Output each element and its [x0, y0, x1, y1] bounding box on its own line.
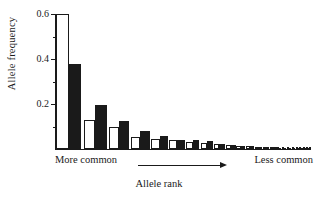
y-tick-label: 0.4 — [23, 53, 49, 64]
bar-white — [84, 120, 95, 149]
x-axis-label: Allele rank — [0, 178, 318, 189]
bar-pair — [56, 14, 84, 149]
bar-pair — [186, 14, 201, 149]
bar-black — [140, 131, 149, 149]
x-axis-annotations: More common Less common — [55, 154, 313, 172]
bar-pair — [236, 14, 246, 149]
bar-pair — [151, 14, 169, 149]
bar-white — [109, 127, 119, 150]
bar-pair — [131, 14, 151, 149]
bar-pair — [109, 14, 131, 149]
bar-black — [310, 148, 311, 149]
more-common-label: More common — [55, 154, 117, 165]
y-tick-major — [51, 14, 55, 15]
bar-group — [56, 14, 311, 149]
bar-black — [219, 144, 224, 149]
bar-black — [177, 140, 185, 149]
bar-pair — [246, 14, 255, 149]
bar-black — [119, 121, 129, 149]
y-tick-major — [51, 104, 55, 105]
bar-black — [207, 141, 213, 149]
bar-white — [186, 142, 193, 149]
bar-black — [250, 146, 254, 149]
bar-pair — [226, 14, 237, 149]
y-tick-label: 0.2 — [23, 98, 49, 109]
arrow-line — [138, 165, 222, 166]
bar-black — [193, 140, 200, 149]
bar-pair — [263, 14, 270, 149]
y-tick-minor — [53, 37, 55, 38]
bar-white — [151, 139, 159, 149]
bar-pair — [255, 14, 263, 149]
allele-frequency-chart: Allele frequency 0.20.40.6 More common L… — [0, 0, 318, 200]
bar-white — [131, 137, 140, 149]
bar-black — [266, 147, 269, 149]
bar-pair — [201, 14, 214, 149]
bar-white — [169, 140, 177, 149]
y-tick-minor — [53, 82, 55, 83]
bar-pair — [169, 14, 185, 149]
y-tick-major — [51, 59, 55, 60]
y-axis-label: Allele frequency — [6, 0, 17, 119]
arrow-head — [220, 162, 227, 168]
bar-black — [241, 146, 245, 149]
bar-pair — [309, 14, 311, 149]
bar-black — [258, 147, 262, 149]
bar-black — [231, 145, 236, 150]
bar-pair — [214, 14, 226, 149]
bar-black — [69, 64, 82, 150]
rank-direction-arrow-icon — [138, 162, 228, 169]
plot-area: 0.20.40.6 — [55, 14, 311, 150]
x-axis-line — [55, 149, 311, 150]
bar-black — [160, 136, 168, 149]
bar-black — [95, 105, 106, 149]
bar-pair — [84, 14, 109, 149]
y-tick-label: 0.6 — [23, 8, 49, 19]
bar-white — [56, 14, 69, 149]
less-common-label: Less common — [254, 154, 313, 165]
y-tick-minor — [53, 127, 55, 128]
